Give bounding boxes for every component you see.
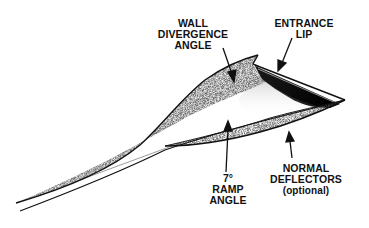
ramp-edge-line: [60, 143, 180, 188]
normal-deflectors-line3: (optional): [258, 185, 354, 196]
inlet-diagram: WALL DIVERGENCE ANGLE ENTRANCE LIP 7° RA…: [0, 0, 369, 228]
ramp-angle-line3: ANGLE: [200, 195, 256, 206]
normal-deflectors-arrow: [290, 141, 292, 158]
normal-deflectors-label: NORMAL DEFLECTORS (optional): [258, 163, 354, 196]
normal-deflectors-arrowhead: [286, 132, 294, 142]
wall-divergence-angle-label: WALL DIVERGENCE ANGLE: [146, 18, 240, 51]
wall-divergence-line3: ANGLE: [146, 40, 240, 51]
normal-deflectors-line2: DEFLECTORS: [258, 174, 354, 185]
entrance-lip-arrow: [282, 38, 292, 63]
entrance-lip-line2: LIP: [262, 29, 346, 40]
entrance-lip-arrowhead: [278, 60, 286, 71]
ramp-angle-arrowhead: [224, 121, 232, 131]
entrance-lip-label: ENTRANCE LIP: [262, 18, 346, 40]
ramp-angle-label: 7° RAMP ANGLE: [200, 173, 256, 206]
